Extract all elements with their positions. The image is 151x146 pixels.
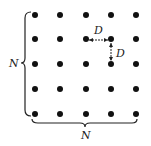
grid-dot: [57, 86, 63, 92]
vertical-spacing-label: D: [115, 47, 125, 60]
grid-diagram: N N D D: [0, 0, 151, 146]
grid-dot: [83, 111, 89, 117]
horizontal-spacing-label: D: [93, 24, 103, 37]
bottom-brace: [32, 119, 137, 127]
grid-dot: [83, 61, 89, 67]
grid-dot: [83, 36, 89, 42]
grid-dot: [133, 111, 139, 117]
grid-dot: [133, 12, 139, 18]
grid-dot: [133, 36, 139, 42]
grid-dot: [108, 86, 114, 92]
grid-dot: [32, 86, 38, 92]
grid-dot: [57, 36, 63, 42]
bottom-brace-label: N: [80, 129, 91, 142]
grid-dot: [108, 111, 114, 117]
grid-dot: [57, 12, 63, 18]
grid-dot: [57, 111, 63, 117]
grid-dot: [32, 12, 38, 18]
grid-dot: [32, 36, 38, 42]
grid-dot: [133, 61, 139, 67]
grid-dot: [108, 36, 114, 42]
grid-dot: [83, 86, 89, 92]
left-brace-label: N: [8, 57, 19, 70]
grid-dot: [57, 61, 63, 67]
grid-dot: [83, 12, 89, 18]
grid-dot: [108, 61, 114, 67]
dot-grid: [32, 12, 139, 117]
left-brace: [21, 12, 31, 116]
horizontal-spacing-arrow: [89, 38, 108, 42]
grid-dot: [108, 12, 114, 18]
grid-dot: [32, 61, 38, 67]
grid-dot: [133, 86, 139, 92]
grid-dot: [32, 111, 38, 117]
vertical-spacing-arrow: [109, 43, 113, 61]
